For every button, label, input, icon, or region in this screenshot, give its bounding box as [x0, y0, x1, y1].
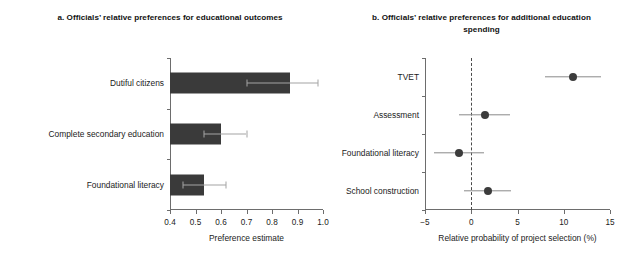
panel-a-category-label: Complete secondary education [49, 129, 170, 139]
panel-a-x-tick [323, 210, 324, 214]
panel-b-category-label: TVET [398, 72, 425, 82]
panel-a-category-label: Dutiful citizens [110, 78, 170, 88]
panel-b-x-tick [471, 210, 472, 214]
panel-b-x-tick-label: 0 [469, 218, 474, 227]
panel-a-x-tick-label: 0.4 [164, 218, 175, 227]
panel-a-y-tick [167, 58, 171, 59]
panel-b-y-tick [422, 96, 426, 97]
panel-a-x-tick [247, 210, 248, 214]
error-cap-high [226, 181, 227, 188]
panel-b-x-axis-title: Relative probability of project selectio… [425, 233, 610, 243]
error-bar-foundational-literacy [183, 184, 226, 185]
panel-b-title: b. Officials’ relative preferences for a… [340, 12, 623, 35]
panel-b-y-tick [422, 172, 426, 173]
panel-a-x-tick [170, 210, 171, 214]
panel-a-x-tick-label: 1.0 [317, 218, 328, 227]
error-cap-low [246, 80, 247, 87]
error-bar-complete-secondary-education [204, 134, 246, 135]
panel-b-y-tick [422, 134, 426, 135]
panel-b-y-tick [422, 58, 426, 59]
panel-b-x-tick [610, 210, 611, 214]
panel-b-x-tick [564, 210, 565, 214]
panel-b-x-tick-label: −5 [420, 218, 429, 227]
panel-a-x-tick [196, 210, 197, 214]
panel-a-x-tick-label: 0.7 [241, 218, 252, 227]
panel-b-plot-area: −5 0 5 10 15 Relative probability of pro… [425, 58, 610, 210]
panel-a-y-tick [167, 159, 171, 160]
dot-tvet [569, 73, 577, 81]
error-cap-high [317, 80, 318, 87]
error-bar-dutiful-citizens [247, 83, 318, 84]
error-cap-low [182, 181, 183, 188]
panel-a-x-tick-label: 0.5 [190, 218, 201, 227]
error-cap-low [204, 131, 205, 138]
panel-a-plot-area: 0.4 0.5 0.6 0.7 0.8 0.9 1.0 Preference e… [170, 58, 323, 210]
panel-b: b. Officials’ relative preferences for a… [340, 0, 623, 270]
panel-a-y-tick [167, 109, 171, 110]
panel-b-category-label: Assessment [373, 110, 425, 120]
panel-a: a. Officials’ relative preferences for e… [0, 0, 340, 270]
panel-b-x-tick-label: 10 [559, 218, 568, 227]
panel-b-x-tick-label: 5 [515, 218, 520, 227]
panel-a-x-tick [272, 210, 273, 214]
panel-b-x-tick [518, 210, 519, 214]
panel-b-x-tick-label: 15 [605, 218, 614, 227]
panel-a-title: a. Officials’ relative preferences for e… [0, 12, 340, 24]
zero-reference-line [471, 58, 472, 210]
dot-school-construction [484, 187, 492, 195]
panel-b-y-axis [425, 58, 426, 210]
panel-a-x-tick-label: 0.9 [292, 218, 303, 227]
error-cap-high [246, 131, 247, 138]
panel-a-x-tick [298, 210, 299, 214]
panel-a-x-tick-label: 0.8 [266, 218, 277, 227]
panel-a-category-label: Foundational literacy [87, 180, 170, 190]
panel-b-category-label: School construction [346, 186, 425, 196]
panel-a-x-axis-title: Preference estimate [170, 233, 323, 243]
dot-assessment [481, 111, 489, 119]
panel-a-x-tick-label: 0.6 [215, 218, 226, 227]
panel-b-category-label: Foundational literacy [342, 148, 425, 158]
figure: a. Officials’ relative preferences for e… [0, 0, 623, 270]
panel-a-x-tick [221, 210, 222, 214]
panel-b-x-tick [425, 210, 426, 214]
dot-foundational-literacy [455, 149, 463, 157]
